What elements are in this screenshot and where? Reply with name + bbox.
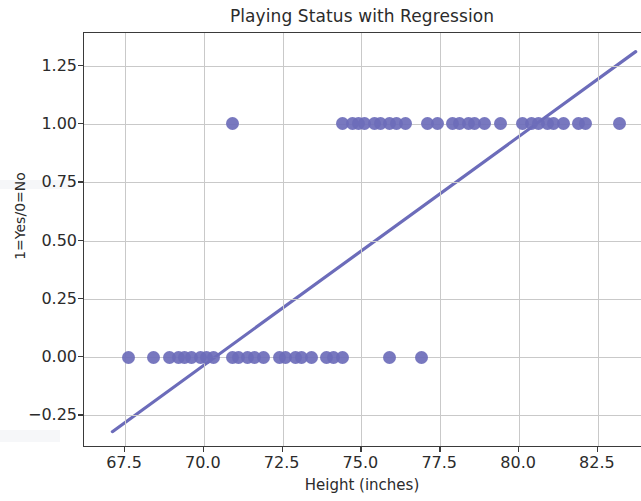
y-tick-mark	[78, 65, 83, 66]
y-tick-mark	[78, 414, 83, 415]
y-tick-mark	[78, 356, 83, 357]
scan-artifact	[0, 430, 60, 442]
gridline-vertical	[125, 33, 126, 446]
y-tick-mark	[78, 181, 83, 182]
y-tick-label: 1.25	[41, 55, 77, 74]
y-tick-label: 0.00	[41, 347, 77, 366]
x-tick-mark	[439, 447, 440, 452]
gridline-vertical	[283, 33, 284, 446]
x-tick-label: 82.5	[579, 453, 615, 472]
x-tick-mark	[518, 447, 519, 452]
x-tick-label: 77.5	[421, 453, 457, 472]
scatter-point	[257, 351, 270, 364]
regression-line	[84, 33, 641, 446]
gridline-vertical	[519, 33, 520, 446]
y-tick-label: 0.75	[41, 172, 77, 191]
gridline-vertical	[361, 33, 362, 446]
plot-area	[83, 32, 641, 447]
y-tick-label: 1.00	[41, 113, 77, 132]
scatter-point	[122, 351, 135, 364]
y-axis-label: 1=Yes/0=No	[12, 126, 28, 306]
y-tick-label: 0.25	[41, 288, 77, 307]
x-axis-label: Height (inches)	[83, 476, 641, 494]
scatter-point	[431, 117, 444, 130]
scatter-point	[305, 351, 318, 364]
scatter-point	[207, 351, 220, 364]
gridline-vertical	[204, 33, 205, 446]
scatter-point	[494, 117, 507, 130]
x-tick-mark	[597, 447, 598, 452]
x-tick-label: 70.0	[185, 453, 221, 472]
chart-title: Playing Status with Regression	[83, 6, 641, 26]
x-tick-label: 72.5	[264, 453, 300, 472]
scatter-point	[336, 351, 349, 364]
x-tick-label: 67.5	[106, 453, 142, 472]
scatter-point	[147, 351, 160, 364]
y-tick-mark	[78, 240, 83, 241]
gridline-horizontal	[84, 241, 641, 242]
chart-figure: Playing Status with Regression 67.570.07…	[0, 0, 641, 501]
gridline-vertical	[440, 33, 441, 446]
scatter-point	[415, 351, 428, 364]
gridline-horizontal	[84, 299, 641, 300]
scatter-point	[383, 351, 396, 364]
x-tick-label: 80.0	[500, 453, 536, 472]
y-tick-label: −0.25	[28, 405, 77, 424]
x-tick-mark	[282, 447, 283, 452]
gridline-horizontal	[84, 66, 641, 67]
x-tick-mark	[203, 447, 204, 452]
x-tick-mark	[360, 447, 361, 452]
gridline-horizontal	[84, 182, 641, 183]
y-tick-label: 0.50	[41, 230, 77, 249]
x-tick-label: 75.0	[343, 453, 379, 472]
y-tick-mark	[78, 123, 83, 124]
gridline-horizontal	[84, 415, 641, 416]
x-tick-mark	[124, 447, 125, 452]
y-tick-mark	[78, 298, 83, 299]
gridline-vertical	[598, 33, 599, 446]
